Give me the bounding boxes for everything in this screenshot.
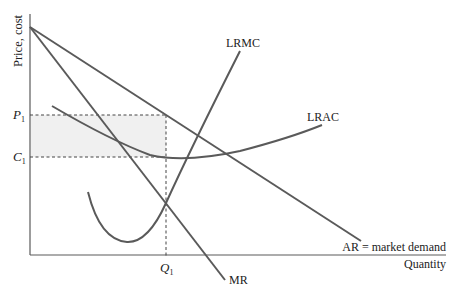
mr-label: MR [229,273,248,287]
monopoly-diagram: Price, cost P1 C1 Q1 LRMC LRAC AR = mark… [0,0,459,295]
q1-label: Q1 [160,260,173,277]
c1-label: C1 [13,149,26,166]
profit-area [31,115,166,157]
ar-label: AR = market demand [342,240,446,254]
x-axis-label: Quantity [404,257,446,271]
p1-label: P1 [12,107,25,124]
lrac-label: LRAC [307,110,339,124]
y-axis-label: Price, cost [11,14,25,67]
lrmc-label: LRMC [226,36,260,50]
